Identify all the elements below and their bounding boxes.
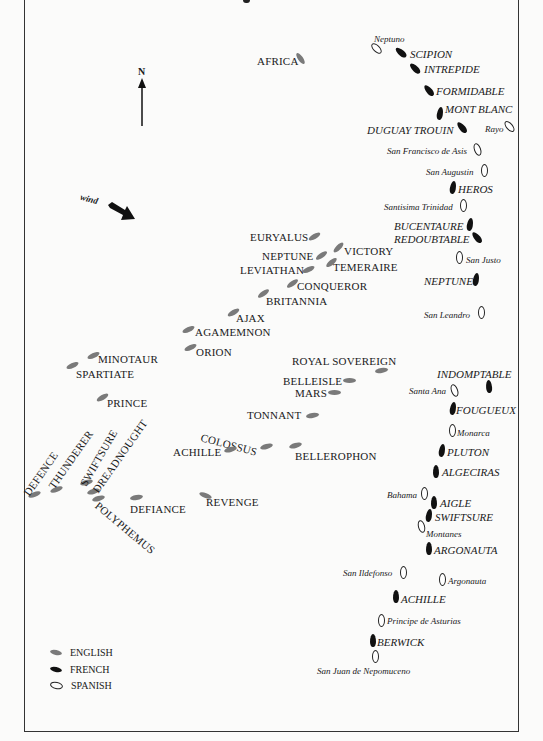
ship-spanish-san-leandro[interactable]	[478, 306, 485, 319]
ship-label-bahama: Bahama	[387, 491, 417, 500]
ship-label-duguay-trouin: DUGUAY TROUIN	[367, 125, 453, 136]
french-ship-icon	[50, 666, 63, 673]
ship-french-aigle[interactable]	[431, 496, 437, 509]
ship-label-orion: ORION	[196, 347, 232, 358]
ship-label-heros: HEROS	[458, 184, 493, 195]
ship-label-tonnant: TONNANT	[247, 410, 301, 421]
ship-label-san-juan: San Juan de Nepomuceno	[317, 667, 410, 676]
ship-label-conqueror: CONQUEROR	[297, 281, 367, 292]
ship-label-monarca: Monarca	[457, 429, 490, 438]
ship-label-temeraire: TEMERAIRE	[333, 262, 398, 273]
ship-label-fougueux: FOUGUEUX	[456, 405, 516, 416]
ship-label-revenge: REVENGE	[206, 497, 259, 508]
legend-french: FRENCH	[50, 664, 109, 675]
ship-label-san-francisco: San Francisco de Asis	[387, 147, 467, 156]
wind-arrow-icon	[108, 202, 136, 224]
ship-label-britannia: BRITANNIA	[266, 296, 327, 307]
ship-label-prince: PRINCE	[107, 398, 147, 409]
ship-label-san-leandro: San Leandro	[424, 311, 470, 320]
ship-french-algeciras[interactable]	[433, 465, 439, 478]
ship-label-neptune-fr: NEPTUNE	[424, 276, 473, 287]
ship-label-achille-fr: ACHILLE	[401, 594, 446, 605]
ship-label-argonauta-sp: Argonauta	[448, 577, 486, 586]
ship-spanish-santisima-trinidad[interactable]	[460, 199, 467, 212]
legend-french-label: FRENCH	[70, 664, 109, 675]
ship-label-redoubtable: REDOUBTABLE	[394, 234, 470, 245]
ship-label-agamemnon: AGAMEMNON	[195, 327, 271, 338]
ship-label-bellerophon: BELLEROPHON	[295, 451, 377, 462]
ship-label-santisima-trinidad: Santisima Trinidad	[384, 203, 453, 212]
ship-french-argonauta[interactable]	[426, 542, 432, 555]
ship-label-berwick: BERWICK	[377, 637, 424, 648]
ship-french-achille[interactable]	[393, 590, 399, 603]
compass-label: N	[138, 67, 145, 77]
ship-label-pluton: PLUTON	[447, 447, 489, 458]
ship-label-indomptable: INDOMPTABLE	[437, 369, 511, 380]
ship-label-leviathan: LEVIATHAN	[240, 265, 304, 276]
legend-spanish: SPANISH	[50, 680, 112, 691]
ship-spanish-san-augustin[interactable]	[481, 164, 488, 177]
ship-label-achille-en: ACHILLE	[173, 447, 221, 458]
ship-label-formidable: FORMIDABLE	[436, 86, 504, 97]
ship-label-san-ildefonso: San Ildefonso	[343, 569, 392, 578]
ship-spanish-san-ildefonso[interactable]	[400, 566, 407, 579]
ship-label-aigle: AIGLE	[440, 498, 471, 509]
ship-label-mont-blanc: MONT BLANC	[445, 104, 512, 115]
ship-label-euryalus: EURYALUS	[250, 232, 308, 243]
ship-label-neptune-en: NEPTUNE	[262, 251, 314, 262]
ship-label-defiance: DEFIANCE	[130, 504, 186, 515]
ship-spanish-principe-de-asturias[interactable]	[378, 614, 385, 627]
ship-label-bucentaure: BUCENTAURE	[394, 221, 463, 232]
english-ship-icon	[50, 649, 63, 656]
ship-label-santa-ana: Santa Ana	[409, 387, 446, 396]
ship-label-rayo: Rayo	[485, 125, 504, 134]
ship-english-mars[interactable]	[328, 390, 341, 395]
ship-label-swiftsure-fr: SWIFTSURE	[435, 512, 493, 523]
legend-english-label: ENGLISH	[70, 647, 113, 658]
ship-label-san-augustin: San Augustin	[426, 168, 474, 177]
ship-french-berwick[interactable]	[370, 634, 376, 647]
ship-spanish-bahama[interactable]	[421, 487, 428, 500]
ship-label-argonauta-fr: ARGONAUTA	[434, 545, 497, 556]
ship-label-san-justo: San Justo	[466, 256, 501, 265]
north-arrow-icon	[136, 78, 148, 128]
legend-spanish-label: SPANISH	[71, 680, 112, 691]
ship-label-ajax: AJAX	[236, 313, 265, 324]
ship-label-scipion: SCIPION	[410, 49, 452, 60]
ship-label-belleisle: BELLEISLE	[283, 376, 342, 387]
ship-spanish-argonauta[interactable]	[439, 573, 446, 586]
ship-spanish-monarca[interactable]	[449, 424, 456, 437]
ship-label-algeciras: ALGECIRAS	[442, 467, 499, 478]
ship-label-mars: MARS	[295, 388, 327, 399]
ship-spanish-san-justo[interactable]	[456, 251, 463, 264]
ship-label-victory: VICTORY	[344, 246, 393, 257]
ship-label-africa: AFRICA	[257, 56, 299, 67]
ship-label-intrepide: INTREPIDE	[424, 64, 480, 75]
ship-label-montanes: Montanes	[426, 530, 462, 539]
ship-label-minotaur: MINOTAUR	[98, 354, 158, 365]
spanish-ship-icon	[49, 681, 63, 691]
ship-label-neptuno: Neptuno	[374, 35, 405, 44]
ship-label-principe-de-asturias: Principe de Asturias	[387, 617, 461, 626]
legend-english: ENGLISH	[50, 647, 113, 658]
ship-english-belleisle[interactable]	[343, 378, 356, 383]
ship-label-spartiate: SPARTIATE	[76, 369, 134, 380]
ship-spanish-san-juan[interactable]	[372, 650, 379, 663]
ship-label-royal-sovereign: ROYAL SOVEREIGN	[292, 356, 396, 367]
